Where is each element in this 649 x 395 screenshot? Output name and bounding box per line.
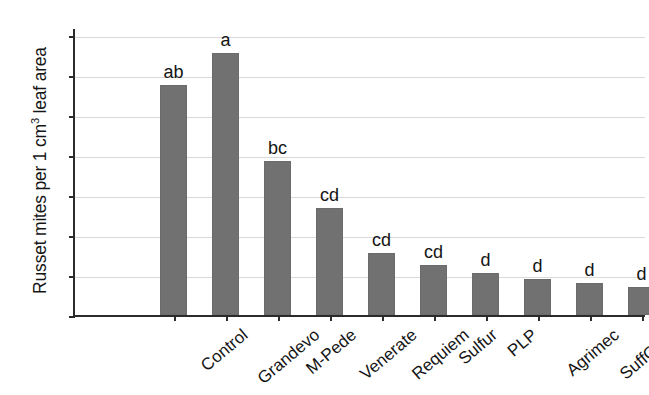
- bar: [160, 85, 187, 315]
- bar: [368, 253, 395, 315]
- bar: [576, 283, 603, 315]
- bar: [212, 53, 239, 315]
- y-axis-tick-mark: [69, 36, 75, 38]
- y-axis-tick-mark: [69, 236, 75, 238]
- x-axis-category-label: Venerate: [356, 326, 419, 383]
- x-axis-category-label: Control: [197, 326, 250, 374]
- bar-significance-letter: d: [456, 251, 516, 269]
- bar: [420, 265, 447, 315]
- bar-significance-letter: a: [196, 31, 256, 49]
- x-axis-tick-mark: [330, 315, 332, 321]
- y-axis-title-main: Russet mites per 1 cm: [30, 124, 50, 294]
- bar-significance-letter: d: [508, 257, 568, 275]
- bar-significance-letter: d: [560, 261, 620, 279]
- bar: [472, 273, 499, 315]
- x-axis-category-label: PLP: [504, 326, 540, 360]
- bar: [316, 208, 343, 315]
- bar-significance-letter: d: [612, 265, 649, 283]
- y-axis-tick-mark: [69, 316, 75, 318]
- y-axis-tick-mark: [69, 276, 75, 278]
- bar-significance-letter: cd: [404, 243, 464, 261]
- y-axis-tick-mark: [69, 76, 75, 78]
- bar: [628, 287, 649, 315]
- x-axis-category-label: SuffOil-X: [616, 326, 649, 383]
- bar-significance-letter: ab: [144, 63, 204, 81]
- x-axis-tick-mark: [174, 315, 176, 321]
- y-axis-title: Russet mites per 1 cm3 leaf area: [30, 11, 51, 331]
- x-axis-tick-mark: [382, 315, 384, 321]
- x-axis-tick-mark: [590, 315, 592, 321]
- gridline: [75, 37, 645, 38]
- y-axis-tick-mark: [69, 196, 75, 198]
- y-axis-title-tail: leaf area: [30, 47, 50, 118]
- bar-chart-figure: Russet mites per 1 cm3 leaf area 0102030…: [0, 0, 649, 395]
- x-axis-tick-mark: [278, 315, 280, 321]
- y-axis-title-exponent: 3: [29, 118, 41, 124]
- y-axis-tick-mark: [69, 156, 75, 158]
- bar: [524, 279, 551, 315]
- x-axis-tick-mark: [226, 315, 228, 321]
- x-axis-category-label: Agrimec: [563, 326, 622, 379]
- x-axis-tick-mark: [434, 315, 436, 321]
- x-axis-tick-mark: [486, 315, 488, 321]
- bar: [264, 161, 291, 315]
- bar-significance-letter: cd: [352, 231, 412, 249]
- x-axis-tick-mark: [538, 315, 540, 321]
- bar-significance-letter: cd: [300, 186, 360, 204]
- x-axis-tick-mark: [642, 315, 644, 321]
- bar-significance-letter: bc: [248, 139, 308, 157]
- y-axis-tick-mark: [69, 116, 75, 118]
- plot-area: 010203040506070abControlaGrandevobcM-Ped…: [73, 29, 645, 317]
